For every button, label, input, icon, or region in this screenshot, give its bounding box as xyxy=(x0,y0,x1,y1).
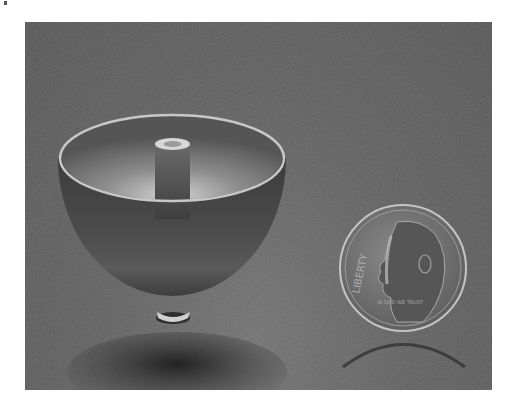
dime: LIBERTY IN GOD WE TRUST xyxy=(340,205,466,331)
photo: LIBERTY IN GOD WE TRUST xyxy=(25,22,492,390)
coin-motto-text: IN GOD WE TRUST xyxy=(377,299,424,305)
corner-mark xyxy=(4,1,7,5)
base-stem xyxy=(156,312,190,324)
central-post xyxy=(155,138,190,219)
